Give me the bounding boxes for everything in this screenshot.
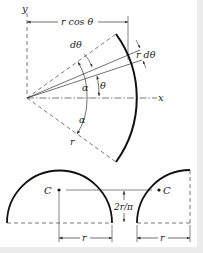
height-label: 2r/π (113, 202, 134, 212)
alpha-upper-label: α (82, 82, 89, 93)
y-axis-label: y (21, 3, 28, 14)
theta-label: θ (100, 80, 106, 91)
dtheta-label: dθ (70, 39, 82, 50)
rdtheta-tick-upper (136, 40, 140, 48)
right-centroid-dot (157, 188, 160, 191)
quarter-arc (137, 170, 190, 223)
left-centroid-dot (57, 188, 60, 191)
rdtheta-tick-lower (143, 61, 146, 68)
x-axis-label: x (158, 92, 164, 103)
rcos-label: r cos θ (61, 16, 93, 27)
right-centroid-label: C (163, 185, 171, 196)
frame-bottom-edge (0, 247, 203, 253)
semicircle-arc (7, 171, 112, 224)
lower-bound-radius (27, 98, 116, 162)
r-label: r (70, 136, 76, 147)
centroid-arc-diagram: y x r cos θ dθ r dθ θ α α r C r 2r/π C (0, 0, 203, 253)
theta-arc (97, 76, 99, 96)
frame-right-edge (197, 0, 203, 253)
arc-diagram: y x r cos θ dθ r dθ θ α α r (21, 3, 164, 162)
rdtheta-label: r dθ (136, 49, 156, 60)
left-centroid-label: C (44, 185, 52, 196)
semicircle-diagram: C r 2r/π C r (7, 170, 190, 243)
alpha-lower-label: α (79, 114, 86, 125)
